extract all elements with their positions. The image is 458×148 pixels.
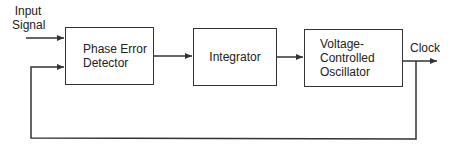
block-label: Controlled <box>320 51 375 65</box>
block-label: Voltage- <box>320 37 375 51</box>
input-label-line: Input <box>12 4 44 18</box>
clock-output-label: Clock <box>410 41 440 55</box>
block-label: Integrator <box>209 50 260 64</box>
block-label: Oscillator <box>320 65 375 79</box>
phase-error-detector-block: Phase Error Detector <box>65 27 154 85</box>
input-label-line: Signal <box>12 18 44 32</box>
block-label: Phase Error <box>83 42 147 56</box>
block-label: Detector <box>83 56 147 70</box>
input-signal-label: Input Signal <box>12 4 44 32</box>
vco-block: Voltage- Controlled Oscillator <box>304 29 403 87</box>
integrator-block: Integrator <box>193 28 277 86</box>
